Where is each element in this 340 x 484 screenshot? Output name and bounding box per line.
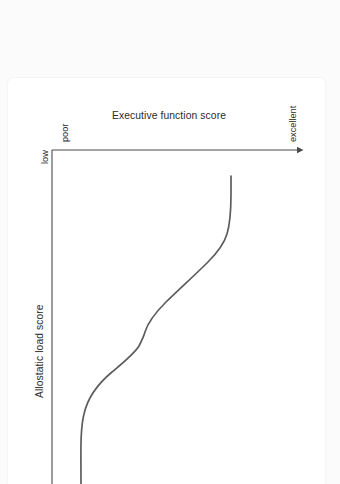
article-line: , adults [31,0,41,78]
article-line: allostatic [0,0,10,78]
article-line: e in [41,0,51,78]
article-line: es on [10,0,20,78]
article-text-block: allostatices onests in, adultse inis cha… [0,0,340,78]
chart-drawing [8,78,325,484]
x-axis-title: Executive function score [112,110,226,121]
data-curve [81,176,231,484]
figure-page: allostatices onests in, adultse inis cha… [0,0,340,484]
x-axis-high-tick-label: excellent [288,106,298,142]
y-axis-title: Allostatic load score [34,304,45,398]
article-line: ed by allo- [71,0,81,78]
y-axis-low-tick-label: low [40,150,50,164]
article-line: body [61,0,71,78]
x-axis-low-tick-label: poor [60,124,70,142]
article-line: age 65), [100,0,110,78]
chart-card: Executive function score poor excellent … [8,78,325,484]
article-text-lines: allostatices onests in, adultse inis cha… [0,0,120,78]
axes [52,150,298,484]
article-line: is chart [51,0,61,78]
article-line: ioning in [90,0,100,78]
article-line: d others, [110,0,120,78]
chart-surface: Executive function score poor excellent … [8,78,325,484]
article-line: ests in [20,0,30,78]
article-line: ltimately [80,0,90,78]
